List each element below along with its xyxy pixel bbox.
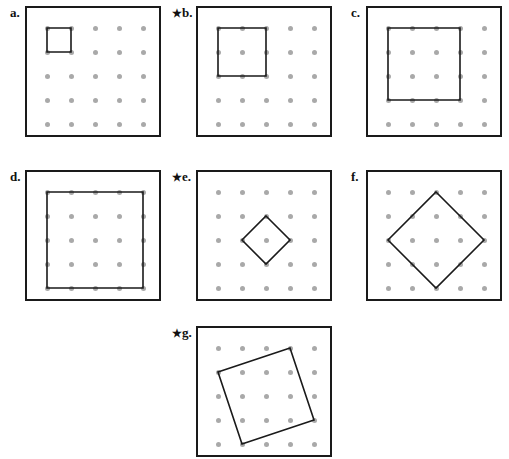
panel-frame-d [25,170,161,301]
shape-outline [388,192,484,288]
panel-frame-g [196,326,332,457]
shape-outline [47,192,143,288]
panel-label-f: f. [351,170,359,183]
shape-square-3x3 [368,8,504,139]
shape-outline [388,28,460,100]
panel-letter: a. [10,5,20,20]
shape-square-2x2 [198,8,334,139]
panel-label-c: c. [351,6,360,19]
panel-frame-f [366,170,502,301]
star-icon: ★ [172,171,182,183]
panel-frame-e [196,170,332,301]
shape-outline [218,348,314,444]
shape-diamond-tilted-1-1 [198,172,334,303]
shape-outline [218,28,266,76]
panel-frame-b [196,6,332,137]
shape-square-tilted-3-1 [198,328,334,459]
panel-letter: f. [351,169,359,184]
panel-letter: c. [351,5,360,20]
shape-diamond-tilted-2-2 [368,172,504,303]
panel-frame-c [366,6,502,137]
panel-label-e: ★e. [172,170,191,183]
panel-label-d: d. [10,170,20,183]
panel-label-g: ★g. [172,326,192,339]
panel-letter: g. [182,325,192,340]
shape-square-4x4 [27,172,163,303]
panel-letter: e. [182,169,191,184]
star-icon: ★ [172,7,182,19]
shape-square-1x1 [27,8,163,139]
star-icon: ★ [172,327,182,339]
shape-outline [47,28,71,52]
panel-label-a: a. [10,6,20,19]
panel-label-b: ★b. [172,6,192,19]
panel-frame-a [25,6,161,137]
panel-letter: d. [10,169,20,184]
panel-letter: b. [182,5,192,20]
shape-outline [242,216,290,264]
